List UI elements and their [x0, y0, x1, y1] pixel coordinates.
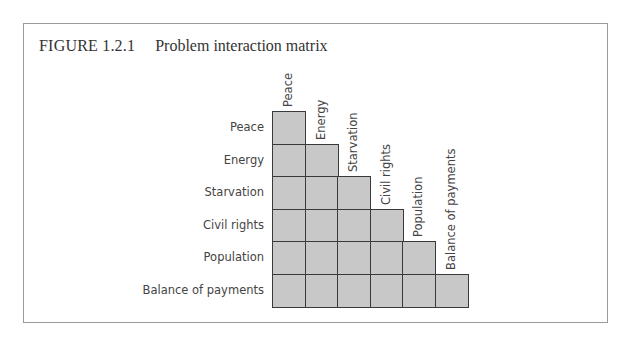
matrix-cell [402, 274, 436, 308]
matrix-cell [305, 274, 339, 308]
matrix-cell [272, 241, 306, 275]
matrix-cell [305, 209, 339, 243]
matrix-cell [337, 274, 371, 308]
column-label: Energy [314, 100, 328, 140]
column-label: Peace [281, 73, 295, 107]
matrix-cell [337, 241, 371, 275]
matrix-cell [272, 144, 306, 178]
matrix-cell [370, 241, 404, 275]
matrix-cell [337, 209, 371, 243]
column-label: Civil rights [379, 144, 393, 205]
row-label: Energy [224, 144, 264, 177]
row-label: Population [204, 241, 264, 274]
column-label: Starvation [346, 113, 360, 172]
figure-number: FIGURE 1.2.1 [39, 37, 135, 54]
matrix-cell [272, 209, 306, 243]
column-label: Balance of payments [444, 149, 458, 270]
matrix-cell [305, 176, 339, 210]
matrix-cell [305, 241, 339, 275]
figure-caption: FIGURE 1.2.1 Problem interaction matrix [39, 37, 328, 55]
matrix-cell [272, 111, 306, 145]
matrix-cell [435, 274, 469, 308]
row-label: Civil rights [203, 209, 264, 242]
matrix-cell [272, 176, 306, 210]
row-label: Balance of payments [143, 274, 264, 307]
matrix-cell [305, 144, 339, 178]
figure-title: Problem interaction matrix [155, 37, 327, 54]
row-label: Starvation [205, 176, 264, 209]
matrix-cell [337, 176, 371, 210]
matrix-cell [402, 241, 436, 275]
row-label: Peace [230, 111, 264, 144]
matrix-cell [370, 209, 404, 243]
matrix-cell [370, 274, 404, 308]
matrix-cell [272, 274, 306, 308]
column-label: Population [411, 177, 425, 237]
